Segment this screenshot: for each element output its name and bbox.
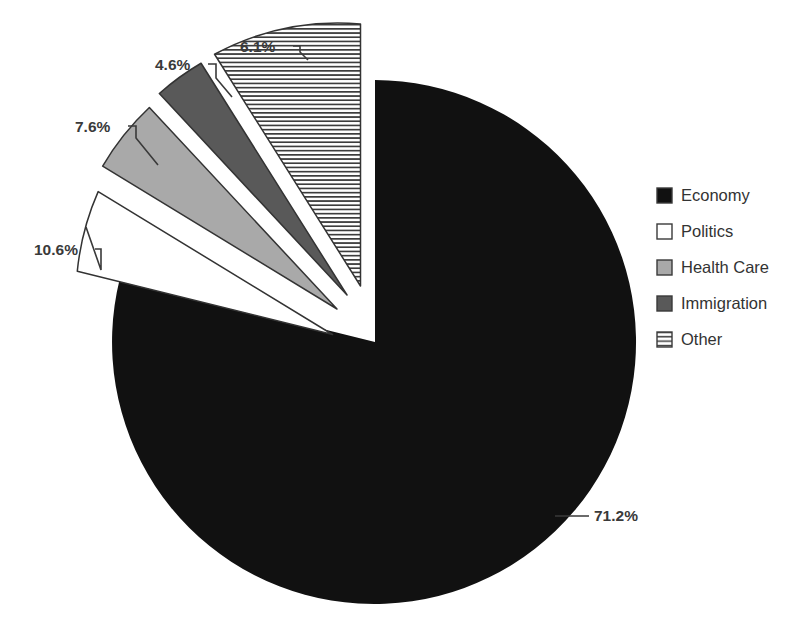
legend-item-other[interactable]: Other	[657, 330, 723, 348]
legend-item-economy[interactable]: Economy	[657, 186, 751, 204]
legend-swatch-immigration-icon	[657, 296, 672, 311]
legend-swatch-politics-icon	[657, 224, 672, 239]
label-immigration-pct: 4.6%	[155, 56, 191, 73]
legend-item-politics[interactable]: Politics	[657, 222, 733, 240]
legend-label-immigration: Immigration	[681, 294, 767, 312]
legend-label-other: Other	[681, 330, 723, 348]
legend-label-health-care: Health Care	[681, 258, 769, 276]
pie-chart-canvas: 10.6% 7.6% 4.6% 6.1% 71.2% Economy Polit…	[0, 0, 796, 624]
label-economy-pct: 71.2%	[594, 507, 638, 524]
legend-label-politics: Politics	[681, 222, 733, 240]
legend-swatch-economy-icon	[657, 188, 672, 203]
label-health-care-pct: 7.6%	[75, 118, 111, 135]
legend-label-economy: Economy	[681, 186, 751, 204]
pie-chart-figure: 10.6% 7.6% 4.6% 6.1% 71.2% Economy Polit…	[0, 0, 796, 624]
label-politics-pct: 10.6%	[34, 241, 78, 258]
legend-swatch-other-icon	[657, 332, 672, 347]
label-other-pct: 6.1%	[240, 38, 276, 55]
legend-swatch-health-care-icon	[657, 260, 672, 275]
